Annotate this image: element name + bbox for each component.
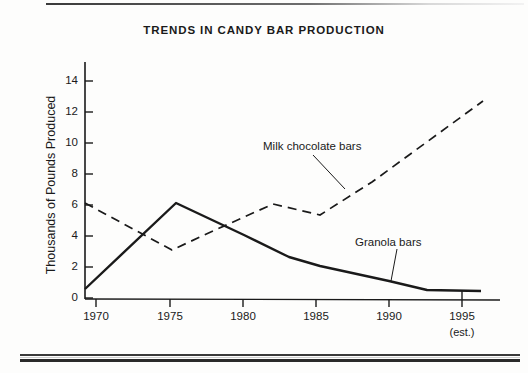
bottom-rule-middle xyxy=(20,357,520,358)
x-tick-label-1980: 1980 xyxy=(218,310,268,322)
bottom-rule-bottom xyxy=(20,359,520,362)
x-tick-label-1995: 1995 xyxy=(437,310,487,322)
x-tick-label-1985: 1985 xyxy=(291,310,341,322)
chart-page: TRENDS IN CANDY BAR PRODUCTION Thousands… xyxy=(0,0,528,373)
milk-chocolate-leader-line xyxy=(313,155,345,189)
y-tick-label-6: 6 xyxy=(52,198,78,210)
y-tick-label-0: 0 xyxy=(52,291,78,303)
x-tick-label-1970: 1970 xyxy=(71,310,121,322)
y-tick-label-10: 10 xyxy=(52,136,78,148)
series-line-milk-chocolate-bars xyxy=(85,101,483,250)
x-axis-line xyxy=(85,299,500,300)
series-label-milk-chocolate-bars: Milk chocolate bars xyxy=(263,140,361,152)
y-tick-label-12: 12 xyxy=(52,105,78,117)
x-tick-label-1990: 1990 xyxy=(364,310,414,322)
series-line-granola-bars xyxy=(85,203,481,291)
series-label-granola-bars: Granola bars xyxy=(355,236,421,248)
x-tick-sublabel-est: (est.) xyxy=(437,326,487,338)
y-axis-ticks xyxy=(85,81,93,298)
granola-leader-line xyxy=(391,249,397,281)
x-tick-label-1975: 1975 xyxy=(145,310,195,322)
y-tick-label-14: 14 xyxy=(52,74,78,86)
y-tick-label-2: 2 xyxy=(52,260,78,272)
y-tick-label-8: 8 xyxy=(52,167,78,179)
bottom-decorative-rules xyxy=(20,354,520,364)
bottom-rule-top xyxy=(20,354,520,356)
y-tick-label-4: 4 xyxy=(52,229,78,241)
